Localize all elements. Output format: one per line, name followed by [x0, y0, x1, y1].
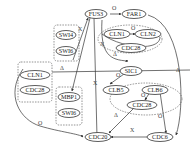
node-cdc28-top[interactable]: CDC28	[116, 44, 146, 53]
network-diagram: O Δ O X X Δ X Δ O O Δ O X O FUS3 FAR1 CL…	[0, 0, 193, 151]
svg-text:MBP1: MBP1	[61, 93, 77, 100]
edge-label-fus3-cdc20: X	[93, 80, 98, 86]
node-cln1-top[interactable]: CLN1	[104, 30, 130, 39]
node-swi6-bottom[interactable]: SWI6	[58, 109, 80, 118]
svg-text:CDC28: CDC28	[122, 44, 141, 51]
edge-label-cln2-fus3: X	[100, 41, 105, 47]
svg-text:SWI6: SWI6	[62, 109, 76, 116]
node-clb5[interactable]: CLB5	[103, 86, 129, 95]
edge-label-clb6-cdc6: O	[158, 113, 163, 119]
svg-text:CLN1: CLN1	[109, 30, 124, 37]
svg-text:SWI6: SWI6	[59, 47, 73, 54]
edge-label-cdc28-cdc20: Δ	[114, 112, 118, 118]
edge-label-sic1-clb5: O	[116, 72, 121, 78]
edge-label-cdc6-cdc20: X	[130, 127, 135, 133]
node-sic1[interactable]: SIC1	[120, 67, 142, 76]
node-mbp1[interactable]: MBP1	[58, 93, 80, 102]
node-swi6-top[interactable]: SWI6	[56, 47, 76, 56]
svg-text:CDC28: CDC28	[26, 86, 45, 93]
node-cdc6[interactable]: CDC6	[147, 133, 173, 142]
node-far1[interactable]: FAR1	[122, 10, 146, 19]
svg-text:CDC6: CDC6	[152, 133, 168, 140]
node-swi4[interactable]: SWI4	[56, 31, 76, 40]
edge-label-fus3-far1: O	[112, 5, 117, 11]
edge-swi4-fus3	[73, 18, 88, 60]
svg-text:CLN1: CLN1	[27, 71, 42, 78]
svg-text:FAR1: FAR1	[127, 10, 142, 17]
svg-text:SIC1: SIC1	[125, 67, 138, 74]
svg-text:CLB5: CLB5	[108, 86, 123, 93]
edge-label-cln1-cln2: O	[131, 25, 136, 31]
svg-text:CDC28: CDC28	[133, 101, 152, 108]
svg-text:CLB6: CLB6	[147, 86, 162, 93]
svg-text:FUS3: FUS3	[89, 10, 103, 17]
node-cdc20[interactable]: CDC20	[85, 133, 111, 142]
svg-text:SWI4: SWI4	[59, 31, 73, 38]
edge-fus3-cdc20	[94, 18, 97, 137]
svg-text:CLN2: CLN2	[140, 30, 155, 37]
node-cln1-left[interactable]: CLN1	[20, 71, 50, 80]
node-cdc28-left[interactable]: CDC28	[20, 86, 50, 95]
svg-text:CDC20: CDC20	[89, 133, 108, 140]
group-cln1-cdc28-left	[18, 62, 52, 102]
node-cln2[interactable]: CLN2	[135, 30, 161, 39]
node-cdc28-bottom[interactable]: CDC28	[127, 101, 157, 110]
edge-label-swi4-fus3: X	[78, 26, 83, 32]
edge-label-cln1-cdc20: O	[38, 120, 43, 126]
edge-label-cln-sic1: Δ	[113, 51, 117, 57]
edge-cln1-cdc20	[15, 69, 83, 137]
node-fus3[interactable]: FUS3	[85, 10, 107, 19]
edge-label-sbf-left: Δ	[60, 65, 64, 71]
diagram-canvas: O Δ O X X Δ X Δ O O Δ O X O FUS3 FAR1 CL…	[0, 0, 193, 151]
node-clb6[interactable]: CLB6	[142, 86, 168, 95]
